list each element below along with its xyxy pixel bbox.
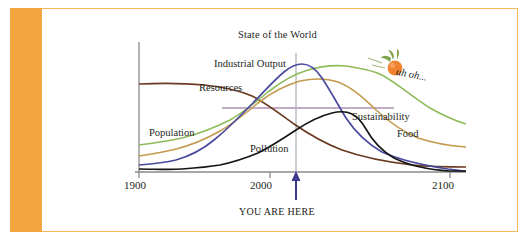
you-are-here-arrow (292, 171, 301, 200)
series-label-sustainability: Sustainability (352, 112, 410, 123)
x-tick-label-1900: 1900 (124, 180, 146, 191)
chart-svg (42, 8, 518, 232)
series-label-pollution: Pollution (250, 144, 289, 155)
series-label-food: Food (397, 129, 419, 140)
x-tick-label-2100: 2100 (432, 180, 454, 191)
page-title: State of the World (238, 30, 317, 41)
x-tick-label-2000: 2000 (250, 180, 272, 191)
orange-accent-bar (10, 8, 42, 232)
series-label-resources: Resources (199, 83, 242, 94)
series-pollution-line (139, 112, 466, 171)
series-label-population: Population (149, 128, 195, 139)
series-label-industrial-output: Industrial Output (214, 59, 286, 70)
series-food-line (139, 79, 466, 156)
annotation-you-are-here: YOU ARE HERE (239, 207, 315, 217)
page-root: State of the World Industrial Output Res… (0, 0, 529, 245)
chart-canvas: State of the World Industrial Output Res… (42, 8, 518, 232)
